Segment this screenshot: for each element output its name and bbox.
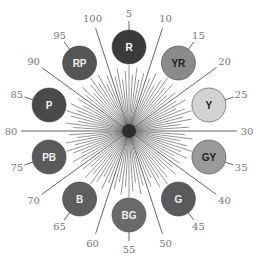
hue-code-label: R [125, 42, 133, 53]
tick-value-label: 10 [159, 13, 172, 24]
hue-circle-canvas: RYRYGYGBGBPBPRP 515253545556575859510203… [0, 0, 259, 265]
hue-value-label: 5 [126, 8, 132, 19]
tick-value-label: 80 [5, 126, 18, 137]
hue-code-label: PB [42, 152, 56, 163]
munsell-hue-circle-diagram: RYRYGYGBGBPBPRP 515253545556575859510203… [0, 0, 259, 265]
hue-code-label: YR [171, 58, 186, 69]
hue-code-label: P [46, 100, 53, 111]
hue-value-label: 25 [235, 89, 248, 100]
center-hub [122, 124, 136, 138]
leader-line [188, 213, 193, 220]
leader-line [64, 42, 69, 49]
hue-code-label: G [175, 194, 183, 205]
hue-value-label: 95 [53, 30, 66, 41]
leader-line [225, 162, 234, 165]
hue-code-label: GY [202, 152, 217, 163]
hue-value-label: 45 [192, 221, 205, 232]
tick-value-label: 40 [218, 195, 231, 206]
tick-value-label: 70 [27, 195, 40, 206]
hue-code-label: BG [122, 210, 137, 221]
hue-value-label: 85 [10, 89, 23, 100]
leader-line [64, 213, 69, 220]
leader-line [24, 97, 33, 100]
hue-code-label: B [76, 194, 83, 205]
tick-value-label: 30 [241, 126, 254, 137]
tick-value-label: 60 [86, 238, 99, 249]
leader-line [225, 97, 234, 100]
hue-code-label: Y [206, 100, 213, 111]
hue-value-label: 35 [235, 162, 248, 173]
hue-value-label: 55 [123, 244, 136, 255]
hue-code-label: RP [73, 58, 87, 69]
tick-value-label: 50 [159, 238, 172, 249]
hue-value-label: 15 [192, 30, 205, 41]
hue-value-label: 65 [53, 221, 66, 232]
tick-value-label: 20 [218, 56, 231, 67]
hue-value-label: 75 [10, 162, 23, 173]
leader-line [188, 42, 193, 49]
tick-value-label: 90 [27, 56, 40, 67]
tick-value-label: 100 [83, 13, 102, 24]
leader-line [24, 162, 33, 165]
